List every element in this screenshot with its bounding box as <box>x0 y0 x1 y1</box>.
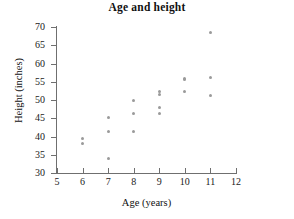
scatter-point <box>158 93 161 96</box>
x-tick-label: 11 <box>198 177 222 187</box>
y-axis-title: Height (inches) <box>13 21 24 161</box>
scatter-plot-figure: Age and height 303540455055606570 567891… <box>0 0 294 219</box>
scatter-point <box>107 130 110 133</box>
scatter-point <box>209 31 212 34</box>
x-tick-mark <box>236 168 237 174</box>
y-tick-label: 65 <box>5 40 45 50</box>
plot-data-area <box>57 27 236 173</box>
x-tick-label: 8 <box>122 177 146 187</box>
scatter-point <box>209 76 212 79</box>
scatter-point <box>132 99 135 102</box>
scatter-point <box>158 112 161 115</box>
y-tick-label: 60 <box>5 59 45 69</box>
x-tick-label: 7 <box>96 177 120 187</box>
x-tick-label: 10 <box>173 177 197 187</box>
x-axis-title: Age (years) <box>57 197 236 208</box>
scatter-point <box>158 106 161 109</box>
y-tick-label: 50 <box>5 95 45 105</box>
y-tick-label: 30 <box>5 168 45 178</box>
scatter-point <box>107 116 110 119</box>
x-tick-label: 12 <box>224 177 248 187</box>
chart-title: Age and height <box>0 1 294 13</box>
x-tick-label: 5 <box>45 177 69 187</box>
y-tick-label: 45 <box>5 113 45 123</box>
x-tick-label: 9 <box>147 177 171 187</box>
y-tick-label: 70 <box>5 22 45 32</box>
scatter-point <box>81 137 84 140</box>
y-tick-label: 55 <box>5 77 45 87</box>
y-tick-label: 40 <box>5 132 45 142</box>
x-tick-label: 6 <box>71 177 95 187</box>
y-tick-label: 35 <box>5 150 45 160</box>
scatter-point <box>107 157 110 160</box>
